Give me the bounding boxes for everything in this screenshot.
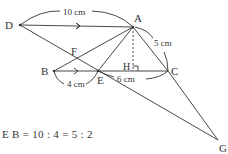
- label-A: A: [134, 12, 142, 24]
- label-B: B: [41, 65, 48, 77]
- right-angle-mark: [133, 66, 138, 71]
- label-F: F: [71, 45, 77, 57]
- segment-AC: [133, 27, 168, 71]
- segment-CG: [168, 71, 218, 140]
- segment-DA: [20, 25, 133, 27]
- measure-DA: 10 cm: [63, 7, 85, 17]
- segment-BA: [54, 27, 133, 71]
- label-E: E: [97, 74, 104, 86]
- measure-EC: 6 cm: [117, 74, 135, 84]
- arc-DA: [20, 11, 60, 25]
- arc-BE: [54, 71, 64, 84]
- ratio-equation: E B = 10 : 4 = 5 : 2: [2, 128, 93, 140]
- measure-AC: 5 cm: [154, 38, 172, 48]
- label-C: C: [171, 65, 178, 77]
- label-H: H: [123, 61, 130, 72]
- label-G: G: [219, 142, 227, 154]
- label-D: D: [5, 19, 13, 31]
- measure-BE: 4 cm: [67, 79, 85, 89]
